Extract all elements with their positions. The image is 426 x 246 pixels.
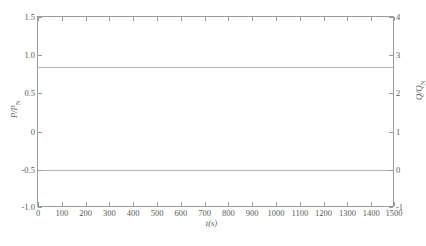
tick-y-right-5 [389, 170, 393, 171]
tick-x-top-10 [252, 17, 253, 21]
tick-x-top-14 [347, 17, 348, 21]
tick-x-bottom-7 [181, 202, 182, 206]
tick-x-top-8 [205, 17, 206, 21]
ticklabel-y-left-5: -0.5 [22, 165, 35, 174]
tick-x-bottom-11 [276, 202, 277, 206]
ticklabel-x-3: 200 [79, 209, 92, 218]
tick-x-bottom-13 [324, 202, 325, 206]
tick-x-bottom-2 [62, 202, 63, 206]
ticklabel-x-7: 600 [174, 209, 187, 218]
series-line-p [38, 67, 393, 68]
ticklabel-y-right-2: 3 [396, 51, 400, 60]
tick-x-bottom-12 [300, 202, 301, 206]
tick-x-top-16 [394, 17, 395, 21]
ticklabel-y-left-6: -1.0 [22, 203, 35, 212]
tick-x-top-15 [371, 17, 372, 21]
ticklabel-x-12: 1100 [291, 209, 308, 218]
tick-x-top-2 [62, 17, 63, 21]
ticklabel-x-1: 0 [36, 209, 40, 218]
tick-y-right-1 [389, 17, 393, 18]
tick-x-bottom-16 [394, 202, 395, 206]
tick-y-left-3 [38, 93, 42, 94]
ticklabel-x-10: 900 [246, 209, 259, 218]
tick-x-bottom-4 [109, 202, 110, 206]
plot-area: 1.5 1.0 0.5 0 -0.5 -1.0 4 3 2 1 0 -1 0 1… [37, 16, 394, 207]
tick-y-right-4 [389, 132, 393, 133]
ticklabel-x-6: 500 [151, 209, 164, 218]
ticklabel-y-left-2: 1.0 [24, 51, 35, 60]
tick-x-top-4 [109, 17, 110, 21]
y-axis-label-right: Q/QN [414, 81, 426, 100]
tick-y-right-3 [389, 93, 393, 94]
x-axis-label: t(s) [0, 218, 423, 228]
ticklabel-y-right-3: 2 [396, 89, 400, 98]
tick-x-bottom-3 [86, 202, 87, 206]
ticklabel-x-4: 300 [103, 209, 116, 218]
series-line-q [38, 170, 393, 171]
ticklabel-x-14: 1300 [339, 209, 356, 218]
ticklabel-y-right-4: 1 [396, 127, 400, 136]
ticklabel-x-11: 1000 [268, 209, 285, 218]
tick-x-top-3 [86, 17, 87, 21]
ticklabel-y-right-5: 0 [396, 165, 400, 174]
tick-x-bottom-14 [347, 202, 348, 206]
tick-x-bottom-15 [371, 202, 372, 206]
ticklabel-x-8: 700 [198, 209, 211, 218]
tick-x-top-9 [228, 17, 229, 21]
tick-x-top-5 [133, 17, 134, 21]
ticklabel-x-16: 1500 [386, 209, 403, 218]
ticklabel-y-left-3: 0.5 [24, 89, 35, 98]
ticklabel-y-left-1: 1.5 [24, 13, 35, 22]
tick-x-bottom-6 [157, 202, 158, 206]
tick-y-left-5 [38, 170, 42, 171]
y-axis-label-right-sub: N [419, 81, 426, 86]
tick-x-top-1 [38, 17, 39, 21]
ticklabel-x-2: 100 [55, 209, 68, 218]
tick-y-right-2 [389, 55, 393, 56]
y-axis-label-left-sub: N [14, 101, 21, 106]
tick-x-top-7 [181, 17, 182, 21]
y-axis-label-left-main: P/P [9, 105, 19, 118]
tick-x-bottom-8 [205, 202, 206, 206]
ticklabel-x-5: 400 [127, 209, 140, 218]
y-axis-label-right-main: Q/Q [414, 85, 424, 100]
tick-x-top-6 [157, 17, 158, 21]
tick-x-bottom-5 [133, 202, 134, 206]
tick-y-left-4 [38, 132, 42, 133]
tick-x-bottom-1 [38, 202, 39, 206]
ticklabel-x-13: 1200 [315, 209, 332, 218]
tick-x-top-13 [324, 17, 325, 21]
tick-x-bottom-9 [228, 202, 229, 206]
tick-x-top-11 [276, 17, 277, 21]
ticklabel-y-right-1: 4 [396, 13, 400, 22]
tick-x-bottom-10 [252, 202, 253, 206]
tick-x-top-12 [300, 17, 301, 21]
y-axis-label-left: P/PN [9, 101, 21, 118]
ticklabel-x-9: 800 [222, 209, 235, 218]
tick-y-left-2 [38, 55, 42, 56]
ticklabel-y-left-4: 0 [31, 127, 35, 136]
ticklabel-x-15: 1400 [363, 209, 380, 218]
